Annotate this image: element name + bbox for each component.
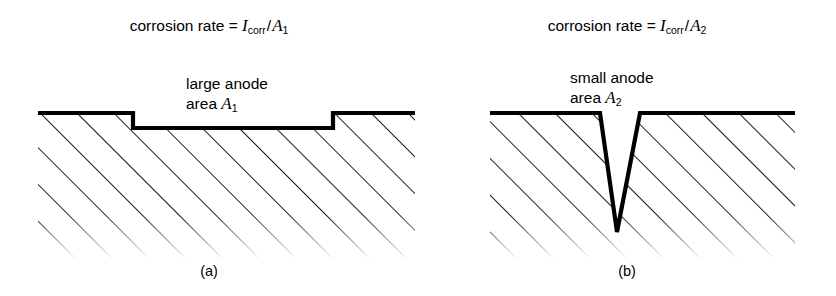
hatch-fill-b — [470, 100, 810, 265]
hatch-fill-a — [20, 100, 430, 265]
corrosion-rate-figure: corrosion rate = Icorr/A1 large anode ar… — [0, 0, 836, 296]
metal-block-b — [470, 100, 810, 265]
metal-cross-section-drawing — [0, 0, 836, 296]
metal-block-a — [20, 100, 430, 265]
